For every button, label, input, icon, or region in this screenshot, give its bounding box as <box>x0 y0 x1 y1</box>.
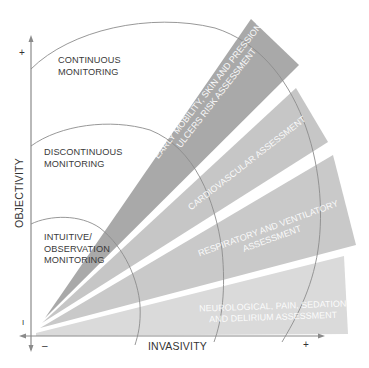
zone-discontinuous-line1: DISCONTINUOUS <box>44 147 122 159</box>
y-axis-arrow-up <box>29 35 34 42</box>
x-minus-mark: – <box>42 340 48 351</box>
x-axis-title: INVASIVITY <box>148 340 207 352</box>
y-axis-title: OBJECTIVITY <box>13 158 25 228</box>
y-axis-arrow-down <box>29 345 34 352</box>
zone-intuitive-line3: MONITORING <box>44 255 110 267</box>
monitoring-diagram: + I – + OBJECTIVITY INVASIVITY CONTINUOU… <box>0 0 369 368</box>
zone-continuous-line2: MONITORING <box>58 67 121 79</box>
x-axis-arrow-right <box>318 334 325 339</box>
zone-intuitive-line1: INTUITIVE/ <box>44 232 110 244</box>
x-plus-mark: + <box>303 339 309 350</box>
y-minus-mark: I <box>22 318 24 327</box>
zone-discontinuous-line2: MONITORING <box>44 159 122 171</box>
zone-intuitive-line2: OBSERVATION <box>44 244 110 256</box>
zone-discontinuous: DISCONTINUOUS MONITORING <box>44 147 122 170</box>
zone-continuous-line1: CONTINUOUS <box>58 55 121 67</box>
x-axis-arrow-left <box>19 334 26 339</box>
zone-intuitive: INTUITIVE/ OBSERVATION MONITORING <box>44 232 110 267</box>
y-plus-mark: + <box>19 47 25 58</box>
zone-continuous: CONTINUOUS MONITORING <box>58 55 121 78</box>
